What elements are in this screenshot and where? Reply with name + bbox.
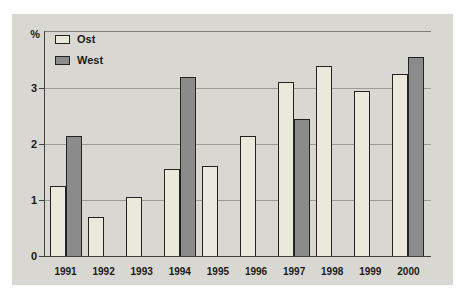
gridline-y1 (45, 200, 431, 201)
gridline-y2 (45, 144, 431, 145)
x-axis-label-1991: 1991 (46, 266, 86, 277)
bar-ost-1994 (164, 169, 180, 256)
x-axis-label-1996: 1996 (236, 266, 276, 277)
bar-ost-1992 (88, 217, 104, 256)
bar-ost-1995 (202, 166, 218, 256)
chart-panel: % Ost West 01231991199219931994199519961… (12, 14, 453, 285)
gridline-y3 (45, 88, 431, 89)
legend-item-ost: Ost (55, 34, 103, 44)
bar-ost-1993 (126, 197, 142, 256)
x-axis-label-1995: 1995 (198, 266, 238, 277)
legend-item-west: West (55, 55, 103, 65)
bar-ost-2000 (392, 74, 408, 256)
bar-ost-1998 (316, 66, 332, 256)
bar-ost-1999 (354, 91, 370, 256)
bar-ost-1996 (240, 136, 256, 256)
bar-west-1991 (66, 136, 82, 256)
y-axis-tick-3 (39, 88, 45, 89)
y-axis-label-3: 3 (23, 81, 37, 95)
bar-ost-1997 (278, 82, 294, 256)
x-axis-label-2000: 2000 (388, 266, 428, 277)
x-axis-label-1992: 1992 (84, 266, 124, 277)
legend-label-west: West (77, 55, 103, 66)
chart-legend: Ost West (55, 34, 103, 76)
bar-west-1997 (294, 119, 310, 256)
legend-label-ost: Ost (77, 34, 95, 45)
figure: % Ost West 01231991199219931994199519961… (0, 0, 465, 298)
bar-ost-1991 (50, 186, 66, 256)
x-axis-label-1997: 1997 (274, 266, 314, 277)
x-axis-label-1994: 1994 (160, 266, 200, 277)
x-axis-label-1998: 1998 (312, 266, 352, 277)
y-axis-label-1: 1 (23, 193, 37, 207)
y-axis-unit-label: % (24, 28, 40, 40)
plot-area: Ost West 0123199119921993199419951996199… (44, 31, 431, 257)
y-axis-label-0: 0 (23, 249, 37, 263)
x-axis-label-1993: 1993 (122, 266, 162, 277)
y-axis-tick-2 (39, 144, 45, 145)
y-axis-label-2: 2 (23, 137, 37, 151)
legend-swatch-west (55, 56, 70, 65)
legend-swatch-ost (55, 35, 70, 44)
bar-west-2000 (408, 57, 424, 256)
x-axis-label-1999: 1999 (350, 266, 390, 277)
y-axis-tick-0 (39, 256, 45, 257)
bar-west-1994 (180, 77, 196, 256)
y-axis-tick-1 (39, 200, 45, 201)
